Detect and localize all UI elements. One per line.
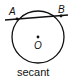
center-point bbox=[37, 36, 40, 39]
secant-diagram: A B O secant bbox=[0, 0, 72, 80]
point-b bbox=[60, 15, 63, 18]
point-a bbox=[16, 18, 19, 21]
caption: secant bbox=[17, 66, 49, 78]
label-b: B bbox=[58, 4, 65, 15]
label-a: A bbox=[8, 6, 16, 17]
label-o: O bbox=[34, 40, 42, 51]
